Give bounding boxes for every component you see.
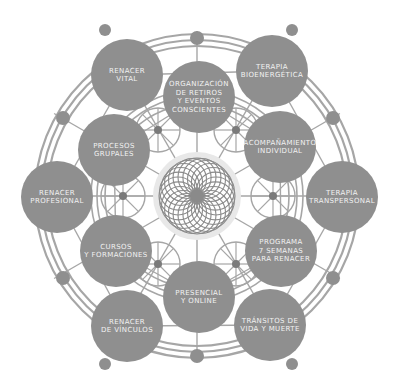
node-label: TRÁNSITOS DE VIDA Y MUERTE	[240, 317, 299, 334]
services-mandala-diagram: RENACER VITALTERAPIA BIOENERGÉTICATERAPI…	[0, 0, 395, 392]
node-label: TERAPIA TRANSPERSONAL	[309, 189, 375, 206]
mandala-core	[190, 189, 204, 203]
node-label: ACOMPAÑAMIENTO INDIVIDUAL	[244, 139, 317, 156]
connector-dot	[154, 260, 162, 268]
node-label: PROCESOS GRUPALES	[93, 142, 135, 159]
connector-dot	[56, 111, 70, 125]
node-terapia-transpersonal[interactable]: TERAPIA TRANSPERSONAL	[306, 161, 378, 233]
connector-dot	[154, 126, 162, 134]
node-presencial-y-online[interactable]: PRESENCIAL Y ONLINE	[163, 261, 235, 333]
connector-dot	[119, 192, 127, 200]
node-renacer-de-vinculos[interactable]: RENACER DE VÍNCULOS	[91, 290, 163, 362]
connector-dot	[190, 31, 204, 45]
connector-dot	[286, 358, 298, 370]
connector-dot	[99, 24, 111, 36]
connector-dot	[326, 111, 340, 125]
node-label: TERAPIA BIOENERGÉTICA	[241, 63, 303, 80]
node-renacer-profesional[interactable]: RENACER PROFESIONAL	[21, 161, 93, 233]
connector-dot	[99, 358, 111, 370]
connector-dot	[190, 349, 204, 363]
connector-dot	[232, 260, 240, 268]
node-label: CURSOS Y FORMACIONES	[84, 243, 147, 260]
node-procesos-grupales[interactable]: PROCESOS GRUPALES	[78, 114, 150, 186]
connector-dot	[286, 24, 298, 36]
connector-dot	[232, 126, 240, 134]
node-terapia-bioenergetica[interactable]: TERAPIA BIOENERGÉTICA	[236, 35, 308, 107]
node-label: RENACER DE VÍNCULOS	[101, 318, 153, 335]
node-label: RENACER VITAL	[109, 67, 145, 84]
node-label: PROGRAMA 7 SEMANAS PARA RENACER	[252, 238, 310, 264]
node-label: PRESENCIAL Y ONLINE	[175, 289, 222, 306]
node-acompanamiento-individual[interactable]: ACOMPAÑAMIENTO INDIVIDUAL	[244, 111, 316, 183]
node-label: RENACER PROFESIONAL	[30, 189, 83, 206]
node-cursos-y-formaciones[interactable]: CURSOS Y FORMACIONES	[80, 215, 152, 287]
connector-dot	[326, 271, 340, 285]
node-renacer-vital[interactable]: RENACER VITAL	[91, 39, 163, 111]
connector-dot	[56, 271, 70, 285]
node-label: ORGANIZACIÓN DE RETIROS Y EVENTOS CONSCI…	[169, 80, 229, 114]
node-organizacion-de-retiros[interactable]: ORGANIZACIÓN DE RETIROS Y EVENTOS CONSCI…	[163, 61, 235, 133]
connector-dot	[269, 192, 277, 200]
node-transitos-de-vida-y-muerte[interactable]: TRÁNSITOS DE VIDA Y MUERTE	[234, 289, 306, 361]
node-programa-7-semanas[interactable]: PROGRAMA 7 SEMANAS PARA RENACER	[245, 215, 317, 287]
